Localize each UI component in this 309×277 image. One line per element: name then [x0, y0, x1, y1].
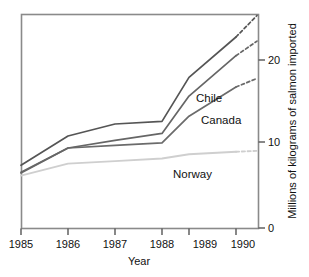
y-tick-label-0: 0 — [268, 222, 274, 234]
x-tick-label-1990: 1990 — [231, 238, 255, 250]
y-axis-title: Millions of kilograms of salmon imported — [286, 23, 298, 219]
x-tick-label-1987: 1987 — [103, 238, 127, 250]
x-tick-label-1989: 1989 — [193, 238, 217, 250]
x-tick-label-1988: 1988 — [150, 238, 174, 250]
chart-svg: 0 10 20 1985 1986 1987 1988 1989 1990 Ye… — [0, 0, 309, 277]
series-label-canada: Canada — [201, 114, 242, 126]
x-axis-title: Year — [128, 255, 151, 267]
salmon-imports-line-chart: 0 10 20 1985 1986 1987 1988 1989 1990 Ye… — [0, 0, 309, 277]
x-tick-label-1986: 1986 — [56, 238, 80, 250]
y-tick-label-10: 10 — [268, 136, 280, 148]
chart-background — [0, 0, 309, 277]
series-label-chile: Chile — [196, 92, 222, 104]
series-label-norway: Norway — [173, 168, 212, 180]
y-tick-label-20: 20 — [268, 54, 280, 66]
x-tick-label-1985: 1985 — [9, 238, 33, 250]
